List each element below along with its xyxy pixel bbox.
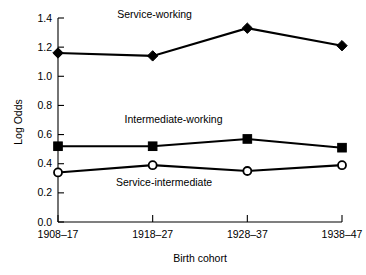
data-point-circle bbox=[149, 161, 157, 169]
data-point-square bbox=[243, 135, 252, 144]
y-axis-tick-labels: 0.00.20.40.60.81.01.21.4 bbox=[37, 12, 52, 228]
series-line-2 bbox=[58, 165, 342, 172]
data-point-diamond bbox=[242, 23, 252, 33]
data-point-circle bbox=[54, 168, 62, 176]
x-axis-title: Birth cohort bbox=[173, 252, 227, 264]
series-line-0 bbox=[58, 28, 342, 56]
y-tick-label: 0.2 bbox=[37, 186, 52, 198]
y-tick-label: 0.4 bbox=[37, 157, 52, 169]
x-tick-label: 1928–37 bbox=[227, 228, 268, 240]
x-tick-label: 1918–27 bbox=[132, 228, 173, 240]
y-tick-label: 0.0 bbox=[37, 216, 52, 228]
series-annotation-0: Service-working bbox=[117, 8, 192, 20]
line-chart: 0.00.20.40.60.81.01.21.4 1908–171918–271… bbox=[0, 0, 366, 275]
data-point-square bbox=[338, 143, 347, 152]
y-tick-label: 1.2 bbox=[37, 41, 52, 53]
x-axis-tick-labels: 1908–171918–271928–371938–47 bbox=[38, 228, 363, 240]
series-annotation-1: Intermediate-working bbox=[124, 113, 222, 125]
series-annotations: Service-workingIntermediate-workingServi… bbox=[116, 8, 223, 188]
x-tick-label: 1938–47 bbox=[322, 228, 363, 240]
chart-container: 0.00.20.40.60.81.01.21.4 1908–171918–271… bbox=[0, 0, 366, 275]
x-axis-ticks bbox=[58, 215, 342, 222]
data-point-circle bbox=[243, 167, 251, 175]
y-tick-label: 1.0 bbox=[37, 70, 52, 82]
y-tick-label: 1.4 bbox=[37, 12, 52, 24]
y-tick-label: 0.8 bbox=[37, 99, 52, 111]
x-tick-label: 1908–17 bbox=[38, 228, 79, 240]
y-tick-label: 0.6 bbox=[37, 128, 52, 140]
data-point-square bbox=[148, 142, 157, 151]
data-point-square bbox=[54, 142, 63, 151]
data-point-circle bbox=[338, 161, 346, 169]
data-point-diamond bbox=[147, 51, 157, 61]
data-point-diamond bbox=[53, 48, 63, 58]
series-markers bbox=[53, 23, 347, 176]
series-line-1 bbox=[58, 139, 342, 148]
y-axis-title: Log Odds bbox=[12, 99, 24, 145]
series-lines bbox=[58, 28, 342, 172]
series-annotation-2: Service-intermediate bbox=[116, 176, 212, 188]
data-point-diamond bbox=[337, 40, 347, 50]
